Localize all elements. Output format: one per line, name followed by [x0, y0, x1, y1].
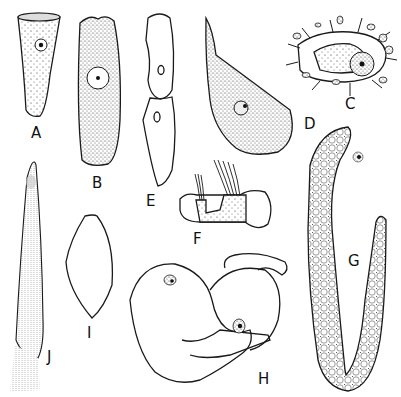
ciliary-tufts — [195, 160, 240, 200]
nucleus — [164, 275, 176, 285]
label-c: C — [345, 95, 355, 113]
nucleolus — [360, 62, 365, 67]
cell-e-lower — [143, 97, 175, 186]
label-h: H — [258, 370, 269, 388]
cell-h-tail — [182, 330, 270, 358]
cell-a-body — [18, 14, 60, 117]
nucleolus — [357, 155, 361, 159]
label-e: E — [146, 192, 155, 210]
label-d: D — [304, 115, 316, 133]
vacuole — [158, 66, 164, 75]
cell-h-left — [130, 264, 251, 382]
label-a: A — [31, 124, 42, 142]
vacuole — [154, 112, 160, 122]
panel-h: H — [130, 254, 287, 388]
panel-i: I — [66, 215, 112, 342]
nucleus — [26, 175, 36, 189]
label-j: J — [46, 348, 51, 366]
panel-b: B — [78, 17, 120, 192]
panel-j: J — [10, 162, 51, 392]
cell-e-upper — [146, 14, 174, 99]
label-f: F — [193, 230, 202, 248]
cell-d-body — [206, 18, 292, 154]
nucleolus — [243, 104, 247, 108]
panel-g: G — [308, 127, 386, 391]
panel-e: E — [143, 14, 175, 210]
ciliary-rim — [18, 13, 60, 21]
nucleolus — [238, 324, 242, 328]
nucleolus — [39, 43, 43, 47]
figure-canvas: A B E D — [0, 0, 401, 397]
nucleus — [234, 101, 248, 115]
lorica-i — [66, 215, 112, 318]
label-g: G — [348, 252, 360, 270]
cell-j-body — [16, 162, 43, 358]
panel-a: A — [18, 13, 60, 142]
nucleolus — [170, 279, 174, 283]
panel-c: C — [286, 16, 397, 113]
cell-b-body — [78, 17, 120, 165]
cell-g-body — [308, 127, 386, 391]
label-b: B — [92, 174, 102, 192]
cell-h-lobe — [224, 254, 286, 275]
panel-f: F — [180, 160, 271, 248]
nucleolus — [96, 76, 100, 80]
label-i: I — [87, 324, 91, 342]
